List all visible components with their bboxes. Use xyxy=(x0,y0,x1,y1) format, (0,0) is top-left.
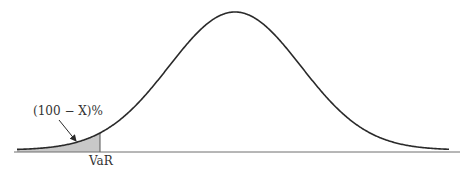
normal-distribution-curve xyxy=(17,12,449,149)
pointer-arrow-icon xyxy=(59,120,76,141)
var-distribution-diagram: (100 − X)% VaR xyxy=(0,0,475,170)
tail-probability-label: (100 − X)% xyxy=(33,104,103,118)
var-label: VaR xyxy=(88,154,114,168)
